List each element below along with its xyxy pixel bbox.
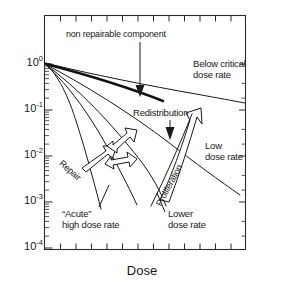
leader-acute — [99, 185, 109, 207]
arrowhead-redistribution — [166, 127, 175, 140]
annotation-lower-dose-rate-line2: dose rate — [168, 220, 206, 231]
arrow-redistribution-upper-hollow — [107, 128, 137, 153]
annotation-below-critical-line2: dose rate — [193, 70, 246, 81]
y-tick-label-3: 10-3 — [6, 194, 43, 206]
curve-acute-high-dose-rate — [45, 63, 101, 209]
y-tick-label-0: 100 — [10, 56, 43, 68]
annotation-acute-line2: high dose rate — [62, 220, 119, 231]
annotation-below-critical-dose-rate: Below critical dose rate — [193, 59, 246, 81]
annotation-redistribution: Redistribution — [133, 108, 188, 119]
y-axis-minor-ticks-left — [45, 66, 50, 236]
y-tick-label-2: 10-2 — [6, 148, 43, 160]
annotation-non-repairable-component: non repairable component — [66, 29, 166, 39]
dose-response-figure: 100 10-1 10-2 10-3 10-4 non repairable c… — [0, 0, 284, 294]
annotation-lower-dose-rate: Lower dose rate — [168, 209, 206, 231]
x-axis-title: Dose — [0, 263, 284, 278]
annotation-low-dose-rate: Low dose rate — [205, 141, 243, 163]
annotation-acute-high-dose-rate: “Acute” high dose rate — [62, 209, 119, 231]
y-tick-label-1: 10-1 — [6, 102, 43, 114]
curve-intermediate-repair — [45, 64, 137, 205]
x-axis-ticks-top — [61, 16, 232, 22]
y-axis-major-ticks-left — [45, 64, 53, 248]
annotation-low-dose-rate-line2: dose rate — [205, 152, 243, 163]
y-tick-label-4: 10-4 — [6, 240, 43, 252]
x-axis-ticks-bottom — [61, 244, 232, 250]
